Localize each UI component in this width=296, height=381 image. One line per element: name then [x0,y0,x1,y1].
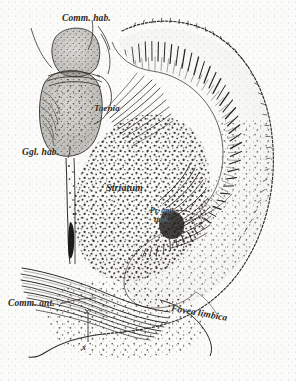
label-marker-x: x [82,344,86,352]
label-ggl-hab: Ggl. hab. [22,148,59,158]
label-pr-line2: tual. [154,216,169,224]
descending-tract [66,158,75,264]
label-pr-line1: Pr. ant. [150,207,174,215]
anatomical-plate: Comm. hab. Taenia Ggl. hab. Striatum Pr.… [0,0,296,381]
label-striatum: Striatum [106,183,143,194]
label-taenia: Taenia [94,104,120,113]
illustration-canvas [0,0,296,381]
label-comm-hab: Comm. hab. [62,14,111,24]
label-comm-ant: Comm. ant. [8,299,55,309]
